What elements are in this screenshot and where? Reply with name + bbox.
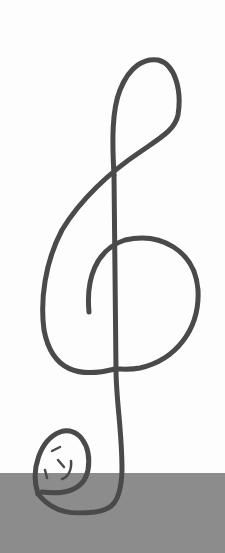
ball-face-mark-2 <box>45 470 47 478</box>
ball-face-mark-1 <box>52 447 60 451</box>
clef-upper-loop <box>43 60 179 373</box>
clef-inner-spiral <box>88 238 198 369</box>
treble-clef-drawing <box>0 0 225 553</box>
ball-face-mark-3 <box>58 460 64 467</box>
clef-stem <box>38 175 122 513</box>
ball-face-mark-4 <box>62 461 71 479</box>
clef-bottom-ball <box>35 431 88 494</box>
